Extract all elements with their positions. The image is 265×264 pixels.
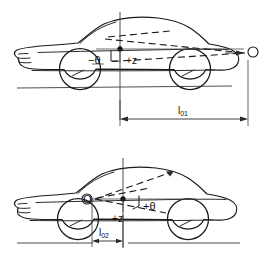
- pitch-center-figure: −θ +z O l01 O +z +θ l02: [0, 0, 265, 264]
- lower-dashed-line-upper: [95, 172, 172, 199]
- upper-o-pointer-arrowhead: [236, 51, 244, 56]
- lower-dimension-label: l02: [99, 228, 109, 238]
- upper-theta-label: −θ: [88, 55, 101, 66]
- lower-rear-wheel: [168, 199, 209, 240]
- lower-greenhouse-detail: [78, 172, 114, 194]
- lower-front-nose-detail: [18, 204, 30, 213]
- upper-front-nose-detail: [18, 54, 31, 63]
- upper-dim-arrow-left: [120, 117, 128, 122]
- lower-diagram-group: [14, 158, 240, 248]
- upper-z-label: +z: [126, 56, 137, 66]
- upper-pitch-center-marker: [248, 47, 258, 57]
- upper-dimension-label-sub: 01: [180, 110, 187, 117]
- upper-rear-wheel: [170, 49, 211, 90]
- upper-dimension-label: l01: [178, 106, 188, 116]
- upper-diagram-group: [14, 12, 258, 126]
- lower-theta-label: +θ: [143, 201, 156, 212]
- lower-dim-arrow-right: [116, 239, 123, 243]
- lower-dim-arrow-left: [92, 239, 99, 243]
- lower-dimension-label-sub: 02: [101, 232, 108, 239]
- upper-dim-arrow-right: [240, 117, 248, 122]
- upper-greenhouse-detail: [80, 22, 116, 44]
- figure-canvas: [0, 0, 265, 264]
- upper-dashed-line-roof: [108, 31, 170, 37]
- lower-dashed-arrowhead: [166, 171, 174, 177]
- upper-theta-angle-bracket: [111, 51, 117, 61]
- lower-pitch-center-label: O: [83, 194, 92, 205]
- lower-z-label: +z: [112, 214, 123, 224]
